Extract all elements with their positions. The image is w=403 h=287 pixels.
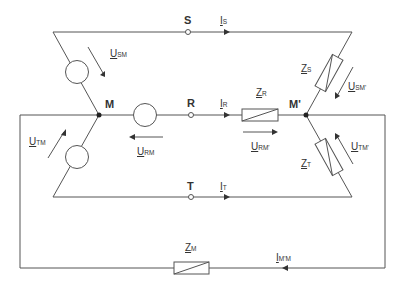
circuit-schematic (0, 0, 403, 287)
node-label-r: R (187, 98, 195, 109)
impedance-label-z-r: ZR (256, 88, 267, 98)
voltage-arrow-u-tm (48, 129, 66, 158)
current-label-i-r: IR (220, 99, 227, 109)
terminal-r (189, 113, 194, 118)
voltage-label-u-sm: USM (110, 49, 127, 59)
current-label-i-s: IS (220, 16, 227, 26)
wire-neutral-return (20, 115, 385, 268)
voltage-label-u-tmp: UTM' (351, 142, 369, 152)
star-point-m-prime (304, 113, 309, 118)
impedance-z-s (315, 54, 343, 91)
impedance-z-r (242, 109, 278, 121)
voltage-arrow-u-rmp (243, 129, 278, 135)
current-arrow-i-t (224, 194, 230, 200)
voltage-source-s (66, 61, 89, 84)
impedance-label-z-m: ZM (185, 243, 197, 253)
current-arrow-i-r (224, 112, 230, 118)
voltage-arrow-u-rm (129, 134, 163, 140)
current-label-i-t: IT (220, 182, 227, 192)
voltage-label-u-tm: UTM (29, 137, 46, 147)
node-label-m-prime: M' (289, 99, 301, 110)
current-arrow-i-s (224, 29, 230, 35)
impedance-label-z-s: ZS (301, 64, 311, 74)
node-label-s: S (184, 15, 191, 26)
current-arrow-i-mpm (282, 265, 288, 271)
circuit-diagram: S R T M M' IS IR IT IM'M USM UTM URM URM… (0, 0, 403, 287)
voltage-source-t (66, 146, 89, 169)
voltage-arrow-u-sm (88, 47, 105, 77)
current-label-i-mpm: IM'M (276, 253, 291, 263)
voltage-label-u-smp: USM' (348, 82, 366, 92)
voltage-label-u-rm: URM (137, 147, 154, 157)
impedance-label-z-t: ZT (301, 159, 311, 169)
terminal-t (189, 195, 194, 200)
terminal-s (186, 30, 191, 35)
impedance-z-m (174, 262, 209, 274)
impedance-z-t (315, 138, 343, 175)
node-label-t: T (187, 181, 194, 192)
voltage-source-r (134, 104, 157, 127)
star-point-m (97, 113, 102, 118)
voltage-label-u-rmp: URM' (251, 142, 270, 152)
node-label-m: M (105, 99, 114, 110)
